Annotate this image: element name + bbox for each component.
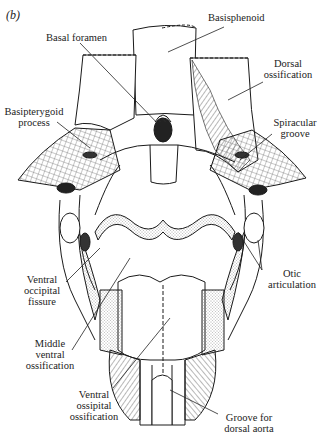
- label-basipterygoid-process: Basipterygoid process: [4, 106, 64, 128]
- label-groove-for-dorsal-aorta: Groove for dorsal aorta: [218, 412, 280, 434]
- label-basal-foramen: Basal foramen: [46, 32, 107, 43]
- label-basisphenoid: Basisphenoid: [208, 12, 265, 23]
- label-middle-ventral-ossification: Middle ventral ossification: [24, 338, 76, 371]
- label-dorsal-ossification: Dorsal ossification: [258, 58, 318, 80]
- label-ventral-ossipital-ossification: Ventral ossipital ossification: [68, 389, 120, 422]
- label-spiracular-groove: Spiracular groove: [268, 117, 322, 139]
- label-otic-articulation: Otic articulation: [262, 268, 322, 290]
- label-ventral-occipital-fissure: Ventral occipital fissure: [20, 274, 64, 307]
